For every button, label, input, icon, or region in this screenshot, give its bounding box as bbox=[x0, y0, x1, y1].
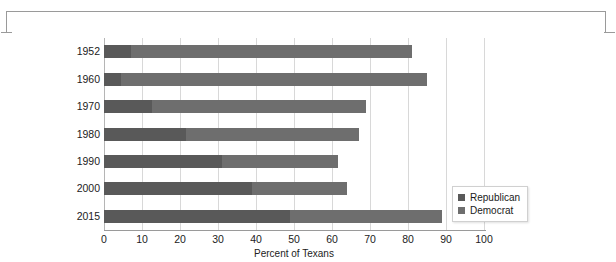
bar-segment-democrat-1980 bbox=[186, 128, 359, 141]
bar-rows bbox=[104, 38, 484, 230]
legend-item-democrat: Democrat bbox=[458, 204, 520, 217]
x-tick-label-30: 30 bbox=[212, 233, 224, 245]
bar-segment-democrat-1990 bbox=[222, 155, 338, 168]
bracket-foot-right bbox=[604, 32, 615, 33]
bar-row bbox=[104, 128, 484, 141]
x-tick-label-20: 20 bbox=[174, 233, 186, 245]
legend-label-democrat: Democrat bbox=[470, 205, 513, 216]
bar-row bbox=[104, 182, 484, 195]
stacked-bar-chart: 1952196019701980199020002015 01020304050… bbox=[0, 34, 616, 262]
legend-label-republican: Republican bbox=[470, 192, 520, 203]
legend-swatch-republican-icon bbox=[458, 194, 465, 201]
outer-bracket-frame bbox=[6, 11, 606, 33]
x-tick-label-80: 80 bbox=[402, 233, 414, 245]
bar-segment-democrat-1960 bbox=[121, 73, 427, 86]
bracket-foot-left bbox=[1, 32, 12, 33]
y-tick-label-2000: 2000 bbox=[56, 182, 100, 195]
bar-row bbox=[104, 155, 484, 168]
bar-row bbox=[104, 73, 484, 86]
bar-segment-republican-1952 bbox=[104, 45, 131, 58]
bar-row bbox=[104, 100, 484, 113]
bar-segment-republican-1970 bbox=[104, 100, 152, 113]
y-tick-label-2015: 2015 bbox=[56, 210, 100, 223]
x-tick-label-10: 10 bbox=[136, 233, 148, 245]
y-tick-label-1960: 1960 bbox=[56, 73, 100, 86]
x-tick-label-50: 50 bbox=[288, 233, 300, 245]
bar-segment-republican-1980 bbox=[104, 128, 186, 141]
bar-segment-republican-2000 bbox=[104, 182, 252, 195]
bar-row bbox=[104, 210, 484, 223]
y-tick-label-1990: 1990 bbox=[56, 155, 100, 168]
bar-segment-democrat-2000 bbox=[252, 182, 347, 195]
legend-swatch-democrat-icon bbox=[458, 207, 465, 214]
y-axis-tick-labels: 1952196019701980199020002015 bbox=[56, 38, 100, 230]
bar-segment-republican-2015 bbox=[104, 210, 290, 223]
plot-area bbox=[104, 38, 484, 230]
x-tick-label-90: 90 bbox=[440, 233, 452, 245]
bar-row bbox=[104, 45, 484, 58]
y-tick-label-1970: 1970 bbox=[56, 100, 100, 113]
bar-segment-republican-1990 bbox=[104, 155, 222, 168]
y-tick-label-1980: 1980 bbox=[56, 128, 100, 141]
x-tick-label-60: 60 bbox=[326, 233, 338, 245]
bar-segment-democrat-1970 bbox=[152, 100, 367, 113]
legend-item-republican: Republican bbox=[458, 191, 520, 204]
bar-segment-republican-1960 bbox=[104, 73, 121, 86]
x-tick-label-70: 70 bbox=[364, 233, 376, 245]
bar-segment-democrat-2015 bbox=[290, 210, 442, 223]
x-tick-label-100: 100 bbox=[475, 233, 493, 245]
x-tick-label-0: 0 bbox=[101, 233, 107, 245]
x-axis-tick-labels: 0102030405060708090100 bbox=[104, 233, 484, 249]
y-tick-label-1952: 1952 bbox=[56, 45, 100, 58]
x-tick-label-40: 40 bbox=[250, 233, 262, 245]
x-axis-line bbox=[104, 230, 486, 231]
chart-legend: Republican Democrat bbox=[452, 186, 528, 222]
x-axis-title: Percent of Texans bbox=[104, 248, 484, 259]
bar-segment-democrat-1952 bbox=[131, 45, 412, 58]
